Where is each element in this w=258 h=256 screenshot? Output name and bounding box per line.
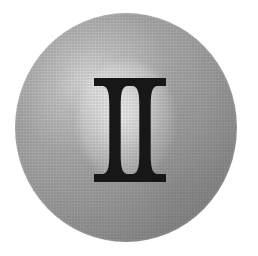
halftone-texture — [15, 13, 237, 242]
grey-sphere-disc — [15, 13, 237, 242]
image-canvas: II — [0, 0, 258, 256]
disc-rim — [15, 13, 237, 242]
disc-shading — [15, 13, 237, 242]
specular-highlight — [78, 61, 174, 181]
